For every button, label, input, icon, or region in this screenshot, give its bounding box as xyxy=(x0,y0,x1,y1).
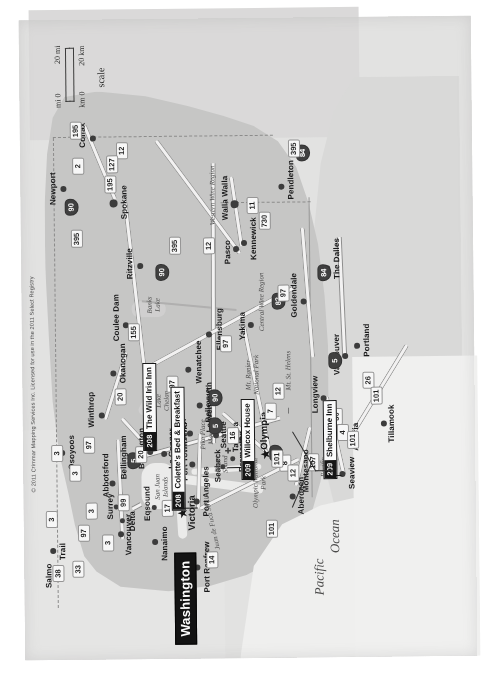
city-label-abbotsford: Abbotsford xyxy=(101,453,110,497)
city-dot-walla-walla xyxy=(231,201,239,209)
scale-mi-max: 20 mi xyxy=(53,45,62,64)
inn-callout-wild-iris[interactable]: 208 The Wild Iris Inn xyxy=(142,363,157,451)
inn-number: 209 xyxy=(242,461,254,479)
city-label-seaview: Seaview xyxy=(347,457,356,489)
inn-callout-shelburne-inn[interactable]: 209 Shelburne Inn xyxy=(323,400,338,480)
shield-wa-20-a: 20 xyxy=(115,388,127,405)
scale-km-zero: km 0 xyxy=(77,91,86,107)
shield-wa-730: 730 xyxy=(259,212,271,230)
scale-label: scale xyxy=(95,67,106,87)
city-dot-okanogan xyxy=(110,370,116,376)
shield-us-12-c: 12 xyxy=(203,237,215,254)
map-canvas: ★ ★ Newport Spokane Colfax Ritzville Cou… xyxy=(19,16,478,661)
map-title: Washington xyxy=(174,553,197,645)
city-label-kennewick: Kennewick xyxy=(249,217,258,260)
city-label-eqsound: Eqsound xyxy=(143,486,152,521)
shield-us-12-b: 12 xyxy=(287,464,299,481)
shield-wa-7: 7 xyxy=(265,403,277,420)
shield-us-195-b: 195 xyxy=(70,122,82,140)
shield-us-97-d: 97 xyxy=(277,285,289,302)
shield-ca-3-c: 3 xyxy=(51,445,63,462)
ocean-label-ocean: Ocean xyxy=(328,519,342,553)
shield-ca-33: 33 xyxy=(72,561,84,578)
city-label-pendleton: Pendleton xyxy=(286,160,295,200)
inn-name: The Wild Iris Inn xyxy=(143,364,156,432)
inn-callout-willcox-house[interactable]: 209 Willcox House xyxy=(241,399,256,480)
region-label-western-wine: Western Wine Region xyxy=(208,150,217,240)
city-dot-wenatchee xyxy=(185,367,191,373)
shield-wa-155: 155 xyxy=(128,324,140,342)
city-label-yakima: Yakima xyxy=(238,312,247,340)
shield-ca-3-e: 3 xyxy=(102,534,114,551)
shield-ca-14: 14 xyxy=(206,551,218,568)
city-dot-goldendale xyxy=(301,298,307,304)
shield-us-101-b: 101 xyxy=(271,450,283,468)
city-dot-port-townsend xyxy=(189,462,195,468)
city-dot-trail xyxy=(50,548,56,554)
city-dot-yakima xyxy=(248,322,254,328)
region-label-mt-st-helens: Mt. St. Helens xyxy=(284,336,293,406)
shield-us-97-e: 97 xyxy=(78,525,90,542)
city-label-walla-walla: Walla Walla xyxy=(220,176,229,221)
scale-legend: mi 0 20 mi km 0 20 km scale xyxy=(53,23,132,108)
city-label-ritzville: Ritzville xyxy=(125,248,134,279)
city-label-longview: Longview xyxy=(310,376,319,414)
shield-us-11: 11 xyxy=(247,197,259,214)
city-dot-colfax xyxy=(90,136,96,142)
shield-ca-3-a: 3 xyxy=(46,511,58,528)
shield-us-101-e: 101 xyxy=(371,387,383,405)
city-label-vancouver-bc: Vancouver xyxy=(124,514,133,555)
shield-wa-127: 127 xyxy=(106,156,118,174)
city-label-portland: Portland xyxy=(362,323,371,356)
city-label-okanogan: Okanogan xyxy=(118,343,127,383)
shield-us-195-a: 195 xyxy=(104,176,116,194)
mountain-peak-icon: ─ xyxy=(285,408,293,414)
city-label-pasco: Pasco xyxy=(223,240,232,264)
pacific-beaches-leader-2 xyxy=(315,470,333,471)
region-label-banks-lake: Banks Lake xyxy=(145,289,161,321)
shield-us-101-a: 101 xyxy=(266,520,278,538)
shield-us-101-d: 101 xyxy=(347,431,359,449)
city-label-newport: Newport xyxy=(48,172,57,205)
city-label-victoria: Victoria xyxy=(187,495,196,531)
scale-bar-km xyxy=(69,48,75,102)
map-screenshot: ★ ★ Newport Spokane Colfax Ritzville Cou… xyxy=(0,0,495,676)
city-label-coulee-dam: Coulee Dam xyxy=(112,294,121,341)
inn-leader-line-willcox xyxy=(227,467,241,468)
city-dot-ellensburg xyxy=(206,331,212,337)
city-dot-leavenworth xyxy=(197,402,203,408)
city-dot-bremerton xyxy=(230,457,235,462)
city-dot-spokane xyxy=(110,200,118,208)
city-label-wenatchee: Wenatchee xyxy=(194,340,203,383)
inn-leader-line-shelburne xyxy=(335,475,341,476)
shield-ca-38: 38 xyxy=(52,565,64,582)
shield-ca-3-d: 3 xyxy=(86,503,98,520)
region-label-central-wine: Central Wine Region xyxy=(257,262,266,342)
city-dot-nanaimo xyxy=(152,539,158,545)
inn-name: Colette's Bed & Breakfast xyxy=(172,388,185,492)
shield-us-395-c: 395 xyxy=(288,140,300,158)
shield-us-395-b: 395 xyxy=(169,237,181,255)
shield-us-97-a: 97 xyxy=(83,437,95,454)
scale-mi-zero: mi 0 xyxy=(53,93,62,108)
city-dot-ritzville xyxy=(137,263,143,269)
shield-ca-99: 99 xyxy=(118,494,130,511)
pike-place-cross-icon: ✚ xyxy=(225,447,233,454)
city-label-spokane: Spokane xyxy=(119,185,128,219)
city-label-winthrop: Winthrop xyxy=(87,392,96,428)
region-label-mt-ranier-np: Mt. Ranier National Park xyxy=(244,342,261,408)
shield-us-12-a: 12 xyxy=(272,383,284,400)
city-dot-pendleton xyxy=(278,184,284,190)
ocean-label-pacific: Pacific xyxy=(312,558,326,595)
inn-number: 208 xyxy=(144,432,156,450)
inn-name: Shelburne Inn xyxy=(324,401,337,460)
city-dot-seaview xyxy=(339,471,345,477)
city-dot-kennewick xyxy=(241,240,247,246)
city-dot-winthrop xyxy=(99,413,105,419)
city-label-nanaimo: Nanaimo xyxy=(160,526,169,561)
inn-name: Willcox House xyxy=(242,400,255,461)
shield-us-97-c: 97 xyxy=(220,335,232,352)
city-label-the-dalles: The Dalles xyxy=(332,238,341,279)
inn-callout-colettes[interactable]: 208 Colette's Bed & Breakfast xyxy=(171,387,186,511)
city-label-tillamook: Tillamook xyxy=(387,404,396,442)
